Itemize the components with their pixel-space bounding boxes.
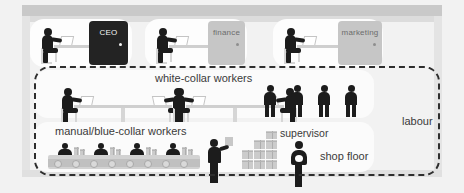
organisation-diagram: CEO finance marketing white xyxy=(0,0,464,193)
desk-leg xyxy=(235,108,237,122)
crate xyxy=(266,131,277,139)
conveyor-roller xyxy=(180,160,188,168)
labour-group-label: labour xyxy=(402,115,433,127)
tier-label-white-collar: white-collar workers xyxy=(155,72,252,84)
building-ceiling xyxy=(22,5,442,16)
white-collar-standing-4 xyxy=(343,85,359,117)
desk-top xyxy=(74,105,124,108)
office-door-label: finance xyxy=(208,28,245,37)
office-door-ceo[interactable]: CEO xyxy=(89,21,128,65)
conveyor-roller xyxy=(126,160,134,168)
crate xyxy=(254,140,265,149)
crate xyxy=(242,160,253,169)
person-seated-icon xyxy=(283,28,303,62)
crate xyxy=(266,150,277,159)
crate xyxy=(266,160,277,169)
office-door-finance[interactable]: finance xyxy=(208,21,245,65)
crate xyxy=(254,160,265,169)
person-seated-icon xyxy=(40,28,60,62)
conveyor-roller xyxy=(144,160,152,168)
conveyor-roller xyxy=(90,160,98,168)
crate xyxy=(254,150,265,159)
conveyor-roller xyxy=(54,160,62,168)
shop-floor-label: shop floor xyxy=(320,150,368,162)
door-knob-icon xyxy=(373,43,376,46)
conveyor-roller xyxy=(72,160,80,168)
white-collar-standing-1 xyxy=(262,85,278,117)
person-seated-icon xyxy=(172,88,192,122)
desk-leg xyxy=(123,108,125,122)
office-door-label: marketing xyxy=(338,28,382,37)
conveyor-roller xyxy=(108,160,116,168)
building-wall-right xyxy=(434,16,442,176)
tier-label-blue-collar: manual/blue-collar workers xyxy=(55,125,186,137)
conveyor-belt xyxy=(48,155,200,169)
person-seated-icon xyxy=(60,88,80,122)
door-knob-icon xyxy=(236,43,239,46)
foreman-with-clipboard xyxy=(206,137,232,183)
supervisor-figure xyxy=(289,141,309,187)
white-collar-standing-3 xyxy=(316,85,332,117)
door-knob-icon xyxy=(119,43,122,46)
desk-top xyxy=(122,105,172,108)
office-door-label: CEO xyxy=(89,28,128,37)
office-door-marketing[interactable]: marketing xyxy=(338,21,382,65)
crate xyxy=(266,140,277,149)
conveyor-surface xyxy=(48,159,200,167)
desk-top xyxy=(186,105,236,108)
building-wall-left xyxy=(22,16,30,176)
white-collar-desk-left-1 xyxy=(56,86,126,124)
conveyor-roller xyxy=(162,160,170,168)
white-collar-standing-2 xyxy=(289,85,305,117)
white-collar-desk-left-2 xyxy=(168,86,238,124)
crate xyxy=(242,150,253,159)
person-seated-icon xyxy=(155,28,175,62)
supervisor-label: supervisor xyxy=(280,127,328,139)
